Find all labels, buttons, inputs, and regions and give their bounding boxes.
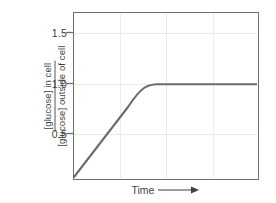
y-tick-label-1-5: 1.5 [38, 27, 67, 39]
y-axis-tick-marks [66, 12, 74, 180]
y-tick-label-0-5: 0.5 [38, 128, 67, 140]
x-axis-label-text: Time [132, 184, 155, 196]
glucose-transport-chart: [glucose] in cell [glucose] outside of c… [0, 0, 276, 203]
y-tick-label-1-0: 1.0 [38, 78, 67, 90]
x-axis-label: Time [73, 184, 259, 196]
plot-area [73, 12, 259, 180]
right-arrow-icon [158, 185, 200, 195]
y-axis-tick-labels: 1.5 1.0 0.5 [38, 0, 67, 203]
data-curve-glucose-ratio [74, 84, 257, 177]
plot-svg [74, 13, 257, 178]
vertical-gridlines [121, 13, 214, 178]
